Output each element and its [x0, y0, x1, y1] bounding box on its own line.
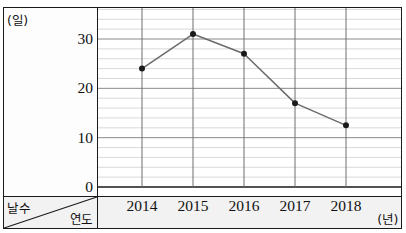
corner-label-days: 날수: [7, 198, 30, 217]
line-chart-svg: [98, 8, 401, 196]
y-tick-label-10: 10: [78, 130, 94, 146]
plot-area: [98, 8, 401, 196]
y-tick-label-30: 30: [78, 31, 94, 47]
y-axis-label-panel: (일) 30 20 10 0: [4, 8, 98, 196]
data-point-2018: [343, 122, 349, 128]
y-tick-label-20: 20: [78, 81, 94, 97]
data-point-2015: [190, 31, 196, 37]
x-tick-label-2017: 2017: [280, 198, 311, 214]
chart-screenshot: (일) 30 20 10 0 날수 연도 (년) 201420152016201…: [0, 0, 406, 233]
x-axis-label-strip: (년) 20142015201620172018: [98, 196, 401, 228]
x-tick-label-2018: 2018: [331, 198, 362, 214]
x-axis-unit-label: (년): [377, 209, 398, 228]
x-tick-label-2015: 2015: [178, 198, 209, 214]
data-point-2017: [292, 100, 298, 106]
axis-corner-cell: 날수 연도: [4, 196, 98, 228]
corner-label-year: 연도: [70, 209, 93, 228]
x-tick-label-2016: 2016: [229, 198, 260, 214]
y-tick-label-0: 0: [85, 179, 93, 195]
data-point-2016: [241, 51, 247, 57]
x-tick-label-2014: 2014: [127, 198, 158, 214]
chart-frame: (일) 30 20 10 0 날수 연도 (년) 201420152016201…: [3, 7, 402, 229]
data-point-2014: [139, 66, 145, 72]
y-axis-unit-label: (일): [7, 10, 28, 29]
